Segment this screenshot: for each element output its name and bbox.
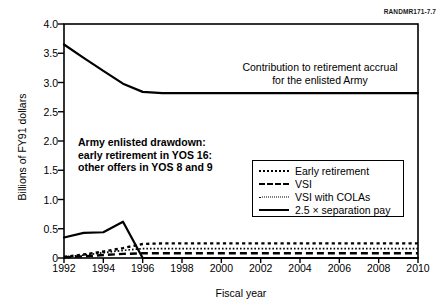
y-tick-label: 4.0: [30, 19, 58, 29]
y-tick-label: 0.5: [30, 224, 58, 234]
y-tick-label: 3.5: [30, 48, 58, 58]
x-tick-label: 2006: [317, 262, 361, 274]
y-tick-label: 3.0: [30, 78, 58, 88]
annotation-line: early retirement in YOS 16:: [78, 149, 213, 162]
x-tick-label: 2010: [396, 262, 440, 274]
chart-figure: RANDMR171-7.7 00.51.01.52.02.53.03.54.0 …: [0, 0, 444, 308]
x-tick-label: 2002: [239, 262, 283, 274]
accrual-curve-label: Contribution to retirement accrualfor th…: [228, 61, 412, 87]
y-tick-label: 2.5: [30, 107, 58, 117]
y-axis-title: Billions of FY91 dollars: [16, 67, 28, 227]
legend-item: 2.5 × separation pay: [259, 203, 403, 216]
y-axis-ticks: [58, 24, 64, 258]
x-tick-label: 1996: [121, 262, 165, 274]
legend-line-swatch: [259, 166, 289, 176]
y-tick-label: 2.0: [30, 136, 58, 146]
x-tick-label: 2000: [199, 262, 243, 274]
legend-label: VSI with COLAs: [295, 191, 370, 203]
x-tick-label: 1992: [42, 262, 86, 274]
x-tick-label: 2008: [357, 262, 401, 274]
x-tick-label: 2004: [278, 262, 322, 274]
legend-label: Early retirement: [295, 165, 369, 177]
legend-line-swatch: [259, 205, 289, 215]
series-line: [64, 243, 418, 256]
legend-line-swatch: [259, 192, 289, 202]
y-tick-label: 1.0: [30, 195, 58, 205]
legend-item: VSI: [259, 177, 403, 190]
legend-label: 2.5 × separation pay: [295, 204, 390, 216]
series-line: [64, 253, 418, 257]
legend: Early retirementVSIVSI with COLAs2.5 × s…: [252, 160, 404, 217]
legend-item: VSI with COLAs: [259, 190, 403, 203]
legend-item: Early retirement: [259, 164, 403, 177]
annotation-line: Army enlisted drawdown:: [78, 136, 213, 149]
curve-label-line: for the enlisted Army: [228, 74, 412, 87]
curve-label-line: Contribution to retirement accrual: [228, 61, 412, 74]
chart-annotation: Army enlisted drawdown:early retirement …: [78, 136, 213, 174]
x-tick-label: 1998: [160, 262, 204, 274]
x-tick-label: 1994: [81, 262, 125, 274]
y-tick-label: 1.5: [30, 165, 58, 175]
x-axis-title: Fiscal year: [64, 287, 418, 299]
annotation-line: other offers in YOS 8 and 9: [78, 161, 213, 174]
legend-label: VSI: [295, 178, 312, 190]
legend-line-swatch: [259, 179, 289, 189]
